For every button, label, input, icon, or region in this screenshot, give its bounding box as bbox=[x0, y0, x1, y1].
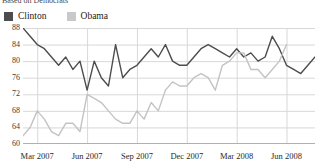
x-tick-jun-2008: Jun 2008 bbox=[271, 152, 302, 161]
chart-svg bbox=[23, 28, 315, 144]
series-line-obama bbox=[23, 45, 287, 136]
x-tick-mar-2008: Mar 2008 bbox=[220, 152, 253, 161]
chart-caption: Based on Democrats bbox=[2, 0, 152, 7]
series-line-clinton bbox=[23, 28, 315, 90]
y-tick-64: 64 bbox=[0, 123, 20, 131]
legend-item-clinton: Clinton bbox=[4, 11, 47, 21]
y-tick-76: 76 bbox=[0, 74, 20, 82]
plot-area bbox=[23, 28, 315, 144]
y-tick-60: 60 bbox=[0, 140, 20, 148]
chart-legend: Clinton Obama bbox=[4, 9, 128, 23]
legend-swatch-obama bbox=[67, 12, 76, 21]
x-tick-jun-2007: Jun 2007 bbox=[72, 152, 103, 161]
y-tick-68: 68 bbox=[0, 107, 20, 115]
legend-item-obama: Obama bbox=[67, 11, 108, 21]
legend-label-obama: Obama bbox=[81, 11, 108, 21]
x-tick-mar-2007: Mar 2007 bbox=[21, 152, 54, 161]
x-tick-dec-2007: Dec 2007 bbox=[170, 152, 203, 161]
legend-label-clinton: Clinton bbox=[18, 11, 47, 21]
y-tick-84: 84 bbox=[0, 41, 20, 49]
chart-caption-text: Based on Democrats bbox=[2, 0, 152, 5]
x-tick-sep-2007: Sep 2007 bbox=[121, 152, 153, 161]
y-tick-88: 88 bbox=[0, 24, 20, 32]
chart-figure: Based on Democrats Clinton Obama 8884807… bbox=[0, 0, 318, 167]
y-tick-80: 80 bbox=[0, 57, 20, 65]
y-axis-tick-labels: 8884807672686460 bbox=[0, 24, 20, 149]
y-tick-72: 72 bbox=[0, 90, 20, 98]
legend-swatch-clinton bbox=[4, 12, 13, 21]
x-axis-tick-labels: Mar 2007Jun 2007Sep 2007Dec 2007Mar 2008… bbox=[0, 152, 318, 166]
plot-wrapper: 8884807672686460 bbox=[0, 24, 318, 149]
